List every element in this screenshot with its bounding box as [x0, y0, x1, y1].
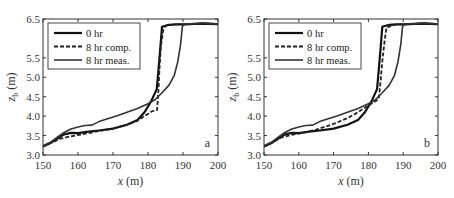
y-tick-label: 3.0 [247, 149, 261, 161]
y-tick-label: 5.0 [26, 71, 40, 83]
y-tick-label: 4.0 [247, 110, 261, 122]
x-tick-label: 160 [291, 159, 308, 171]
y-tick-label: 5.5 [26, 52, 40, 64]
x-tick-label: 170 [105, 159, 122, 171]
x-tick-label: 160 [70, 159, 87, 171]
y-tick-label: 5.0 [247, 71, 261, 83]
x-tick-label: 170 [325, 159, 342, 171]
legend-label: 8 hr comp. [307, 42, 352, 53]
x-tick-label: 200 [210, 159, 227, 171]
y-tick-label: 6.5 [247, 13, 261, 25]
legend-label: 0 hr [86, 28, 103, 39]
x-tick-label: 190 [395, 159, 412, 171]
legend-label: 8 hr comp. [86, 42, 131, 53]
x-tick-label: 180 [140, 159, 157, 171]
legend-label: 0 hr [307, 28, 324, 39]
y-tick-label: 4.5 [247, 91, 261, 103]
figure: 1501601701801902003.03.54.04.55.05.56.5x… [0, 0, 454, 198]
x-tick-label: 190 [175, 159, 192, 171]
y-tick-label: 3.5 [247, 130, 261, 142]
y-axis-label: zb (m) [225, 72, 241, 102]
chart-panel-a: 1501601701801902003.03.54.04.55.05.56.5x… [4, 13, 227, 188]
legend: 0 hr8 hr comp.8 hr meas. [48, 23, 140, 69]
y-tick-label: 3.5 [26, 130, 40, 142]
y-axis-label: zb (m) [4, 72, 20, 102]
legend: 0 hr8 hr comp.8 hr meas. [269, 23, 361, 69]
legend-label: 8 hr meas. [86, 55, 129, 66]
y-tick-label: 4.5 [26, 91, 40, 103]
x-tick-label: 200 [430, 159, 447, 171]
x-tick-label: 180 [360, 159, 377, 171]
y-tick-label: 5.5 [247, 52, 261, 64]
y-tick-label: 3.0 [26, 149, 40, 161]
legend-label: 8 hr meas. [307, 55, 350, 66]
panel-letter: b [424, 136, 430, 150]
panel-letter: a [205, 136, 211, 150]
x-axis-label: x (m) [117, 174, 144, 188]
x-axis-label: x (m) [337, 174, 364, 188]
y-tick-label: 6.5 [26, 13, 40, 25]
y-tick-label: 4.0 [26, 110, 40, 122]
chart-panel-b: 1501601701801902003.03.54.04.55.05.56.5x… [225, 13, 447, 188]
